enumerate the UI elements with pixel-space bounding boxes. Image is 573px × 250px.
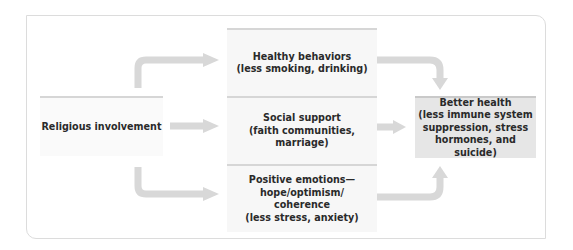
arrow-to-healthy-behaviors	[138, 60, 204, 88]
arrowhead-icon	[432, 166, 448, 178]
mediator-node-healthy-behaviors: Healthy behaviors (less smoking, drinkin…	[227, 28, 377, 96]
source-label: Religious involvement	[41, 121, 161, 134]
mediator-title: Healthy behaviors	[236, 51, 367, 64]
source-node-religious-involvement: Religious involvement	[40, 96, 163, 156]
mediator-title: Social support	[249, 112, 355, 125]
outcome-detail: hormones, and suicide)	[415, 134, 536, 159]
arrowhead-icon	[432, 78, 448, 90]
mediator-node-positive-emotions: Positive emotions— hope/optimism/ cohere…	[227, 164, 377, 232]
mediator-detail: coherence	[245, 199, 358, 212]
mediator-detail: (less stress, anxiety)	[245, 212, 358, 225]
outcome-title: Better health	[415, 97, 536, 110]
outcome-node-better-health: Better health (less immune system suppre…	[415, 96, 536, 158]
arrowhead-icon	[393, 120, 406, 134]
mediator-detail: (less smoking, drinking)	[236, 63, 367, 76]
arrowhead-icon	[203, 53, 219, 67]
outcome-detail: (less immune system	[415, 109, 536, 122]
mediator-node-social-support: Social support (faith communities, marri…	[227, 96, 377, 164]
outcome-detail: suppression, stress	[415, 122, 536, 135]
arrowhead-icon	[203, 119, 219, 133]
mediator-detail: hope/optimism/	[245, 187, 358, 200]
mediator-detail: (faith communities,	[249, 125, 355, 138]
mediator-title: Positive emotions—	[245, 174, 358, 187]
arrowhead-icon	[203, 187, 219, 201]
arrow-to-positive-emotions	[138, 167, 204, 194]
mediator-detail: marriage)	[249, 137, 355, 150]
